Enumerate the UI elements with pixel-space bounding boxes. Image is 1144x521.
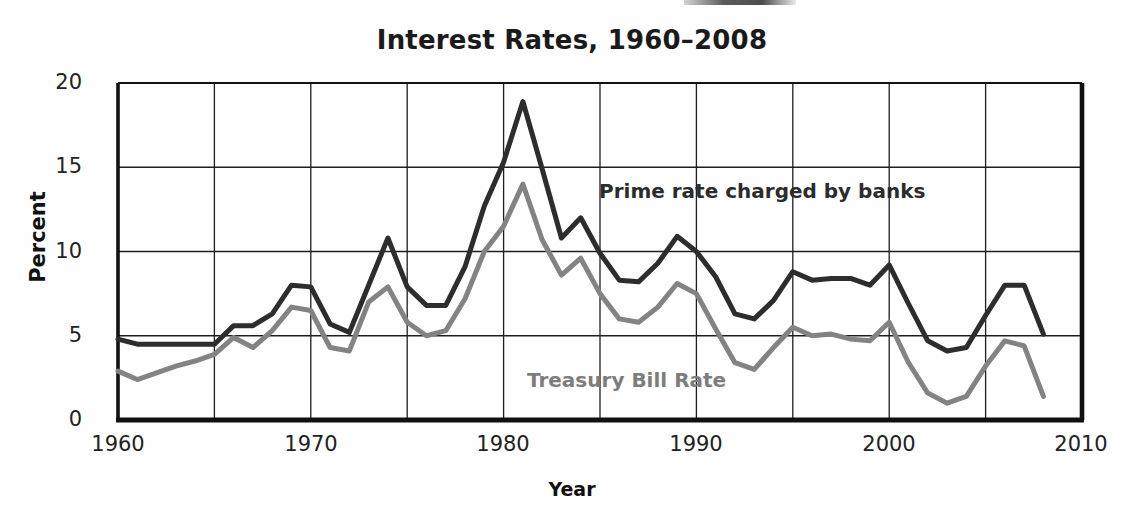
- chart-figure: Interest Rates, 1960–2008 Percent Year 2…: [0, 0, 1144, 521]
- series-line-prime-rate: [118, 102, 1043, 351]
- prime-rate-label: Prime rate charged by banks: [599, 179, 925, 203]
- treasury-bill-label: Treasury Bill Rate: [527, 368, 726, 392]
- series-lines: [118, 102, 1043, 404]
- plot-area: [0, 0, 1144, 521]
